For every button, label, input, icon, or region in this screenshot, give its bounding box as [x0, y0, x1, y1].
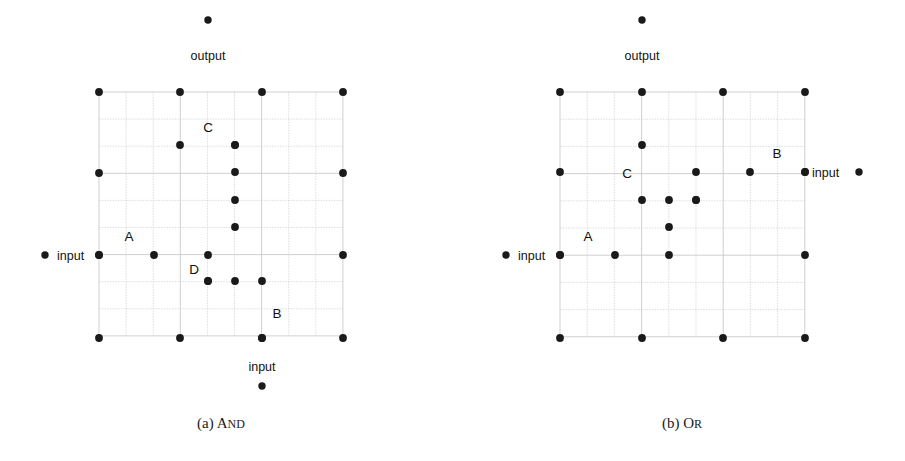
boundary-dot [95, 169, 103, 177]
segment-c-label: C [203, 120, 213, 135]
interior-dot [231, 196, 239, 204]
segment-a-endpoint-dot [611, 251, 619, 259]
dots-and [95, 88, 347, 342]
boundary-dot [176, 334, 184, 342]
interior-dot [692, 196, 700, 204]
input-left-terminal-dot [41, 251, 48, 258]
boundary-dot [258, 88, 266, 96]
dots-or [556, 88, 809, 342]
input-right-terminal-dot [855, 168, 862, 175]
input-left-terminal-dot [502, 251, 509, 258]
boundary-dot [638, 88, 646, 96]
boundary-dot [339, 169, 347, 177]
segment-d-endpoint-dot [204, 251, 212, 259]
segment-b-endpoint-dot [258, 277, 266, 285]
boundary-dot [176, 88, 184, 96]
panel-or: CBAoutputinputinput(b) OR [502, 16, 862, 432]
boundary-dot [95, 251, 103, 259]
boundary-dot [339, 88, 347, 96]
caption-prefix: (a) [197, 415, 217, 432]
output-terminal-dot [638, 16, 645, 23]
segment-a-endpoint-dot [150, 251, 158, 259]
boundary-dot [95, 88, 103, 96]
caption-and: (a) AND [197, 415, 245, 432]
segment-d-label: D [189, 262, 199, 277]
interior-dot [231, 168, 239, 176]
caption-or: (b) OR [662, 415, 702, 432]
output-terminal-dot [204, 16, 211, 23]
segment-c-endpoint-dot [638, 141, 646, 149]
interior-dot [231, 277, 239, 285]
input-right-terminal-label: input [812, 166, 840, 180]
caption-prefix: (b) [662, 415, 683, 432]
input-bottom-terminal-label: input [248, 360, 276, 374]
segments-or: CBA [556, 141, 809, 259]
interior-dot [231, 223, 239, 231]
caption-name-initial: O [683, 415, 694, 431]
caption-name-rest: R [694, 417, 702, 431]
caption-name-initial: A [217, 415, 228, 431]
boundary-dot [258, 334, 266, 342]
boundary-dot [719, 88, 727, 96]
boundary-dot [801, 88, 809, 96]
segment-a-label: A [583, 229, 592, 244]
boundary-dot [556, 88, 564, 96]
boundary-dot [801, 168, 809, 176]
figure-canvas: CADBoutputinputinput(a) ANDCBAoutputinpu… [0, 0, 905, 461]
boundary-dot [95, 334, 103, 342]
boundary-dot [556, 251, 564, 259]
terminals-and: outputinputinput [41, 16, 276, 389]
terminals-or: outputinputinput [502, 16, 862, 263]
boundary-dot [638, 334, 646, 342]
segment-b-label: B [772, 146, 781, 161]
panel-and: CADBoutputinputinput(a) AND [41, 16, 347, 432]
segment-c-endpoint-dot [638, 196, 646, 204]
grid-and [99, 92, 343, 336]
segment-b-label: B [272, 306, 281, 321]
segment-mid-stub-endpoint-dot [665, 251, 673, 259]
interior-dot [665, 196, 673, 204]
boundary-dot [801, 334, 809, 342]
output-terminal-label: output [625, 49, 660, 63]
boundary-dot [801, 251, 809, 259]
interior-dot [231, 141, 239, 149]
boundary-dot [556, 334, 564, 342]
boundary-dot [556, 168, 564, 176]
segment-b-endpoint-dot [746, 168, 754, 176]
input-bottom-terminal-dot [258, 382, 265, 389]
segment-a-label: A [124, 229, 133, 244]
segment-c-endpoint-dot [176, 141, 184, 149]
grid-or [560, 92, 805, 337]
caption-name-rest: ND [228, 417, 246, 431]
boundary-dot [719, 334, 727, 342]
segment-right-stub-endpoint-dot [692, 168, 700, 176]
segment-mid-stub-endpoint-dot [665, 223, 673, 231]
input-left-terminal-label: input [518, 249, 546, 263]
boundary-dot [339, 251, 347, 259]
boundary-dot [339, 334, 347, 342]
logic-gate-figure: CADBoutputinputinput(a) ANDCBAoutputinpu… [0, 0, 905, 461]
segment-c-label: C [622, 166, 632, 181]
output-terminal-label: output [191, 49, 226, 63]
interior-dot [204, 277, 212, 285]
input-left-terminal-label: input [57, 249, 85, 263]
